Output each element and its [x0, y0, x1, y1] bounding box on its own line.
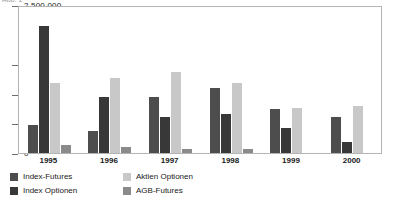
- bar-group: [19, 7, 80, 153]
- bar-group: [262, 7, 323, 153]
- x-axis-label: 1998: [221, 156, 239, 165]
- legend-label: Index-Futures: [23, 172, 72, 181]
- legend-label: Index Optionen: [23, 186, 77, 195]
- x-axis-label: 1997: [161, 156, 179, 165]
- x-axis-label: 2000: [343, 156, 361, 165]
- clipped-title-fragment: Abb. 1: [2, 0, 122, 5]
- bar: [88, 131, 98, 153]
- bar: [292, 108, 302, 153]
- bar-group: [140, 7, 201, 153]
- bar: [232, 83, 242, 153]
- legend-column: Index-FuturesIndex Optionen: [10, 170, 77, 198]
- bar: [243, 149, 253, 153]
- bar: [281, 128, 291, 153]
- x-axis-label: 1995: [39, 156, 57, 165]
- bar-chart-figure: Abb. 1 0500 0001 000 0001 500 0002 500 0…: [0, 0, 397, 203]
- legend-swatch-icon: [10, 173, 18, 181]
- legend-swatch-icon: [10, 187, 18, 195]
- bar: [121, 147, 131, 154]
- legend-item[interactable]: Aktien Optionen: [123, 170, 193, 183]
- bar-group: [80, 7, 141, 153]
- bar: [342, 142, 352, 153]
- legend-item[interactable]: AGB-Futures: [123, 184, 193, 197]
- bar: [39, 26, 49, 153]
- bar: [171, 72, 181, 153]
- bar: [160, 117, 170, 153]
- legend-item[interactable]: Index-Futures: [10, 170, 77, 183]
- y-tick-mark: [12, 154, 18, 155]
- legend-swatch-icon: [123, 173, 131, 181]
- bar: [331, 117, 341, 153]
- legend-swatch-icon: [123, 187, 131, 195]
- chart-legend: Index-FuturesIndex OptionenAktien Option…: [10, 170, 390, 198]
- bar: [221, 114, 231, 153]
- bar: [210, 88, 220, 153]
- bar: [28, 125, 38, 153]
- bar: [50, 83, 60, 153]
- bar-group: [201, 7, 262, 153]
- bar: [270, 109, 280, 153]
- plot-area: [18, 6, 382, 154]
- legend-label: AGB-Futures: [136, 186, 183, 195]
- bar: [149, 97, 159, 153]
- bar-group: [322, 7, 383, 153]
- x-axis-label: 1996: [100, 156, 118, 165]
- bar: [353, 106, 363, 153]
- legend-label: Aktien Optionen: [136, 172, 193, 181]
- x-axis-label: 1999: [282, 156, 300, 165]
- bar: [182, 149, 192, 153]
- clipped-title-text: Abb. 1: [2, 0, 22, 3]
- legend-column: Aktien OptionenAGB-Futures: [123, 170, 193, 198]
- bar: [99, 97, 109, 153]
- legend-item[interactable]: Index Optionen: [10, 184, 77, 197]
- bar: [61, 145, 71, 153]
- bar: [110, 78, 120, 153]
